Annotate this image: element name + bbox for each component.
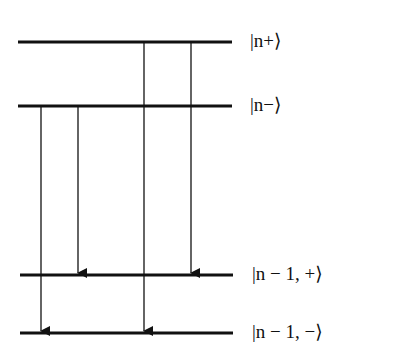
- transition-arrows: [41, 42, 191, 331]
- energy-level-diagram: [0, 0, 397, 355]
- level-label-n-minus-1-minus: |n − 1, −⟩: [252, 322, 323, 341]
- level-label-n-minus-1-plus: |n − 1, +⟩: [252, 264, 323, 283]
- level-label-n-minus: |n−⟩: [250, 95, 281, 114]
- energy-levels: [18, 42, 233, 333]
- level-label-n-plus: |n+⟩: [250, 31, 281, 50]
